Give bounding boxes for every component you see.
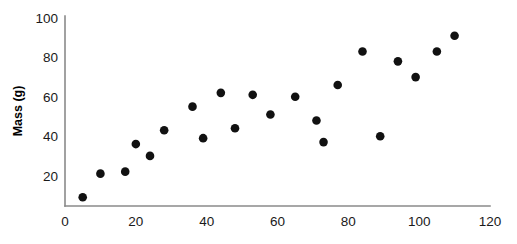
axes — [65, 16, 490, 206]
x-tick-labels: 020406080100120 — [61, 214, 501, 229]
x-tick-label: 120 — [479, 214, 502, 229]
data-point — [266, 110, 275, 119]
data-point — [376, 132, 385, 141]
data-point — [188, 102, 197, 111]
y-tick-label: 80 — [43, 50, 58, 65]
data-point — [312, 116, 321, 125]
y-tick-label: 60 — [43, 90, 58, 105]
data-point — [411, 73, 420, 82]
data-point — [146, 152, 155, 161]
data-point — [78, 193, 87, 202]
data-point — [358, 47, 367, 56]
data-point — [96, 169, 105, 178]
x-tick-label: 20 — [128, 214, 143, 229]
y-tick-labels: 20406080100 — [35, 11, 58, 184]
data-point — [433, 47, 442, 56]
y-tick-label: 20 — [43, 169, 58, 184]
x-tick-label: 100 — [408, 214, 431, 229]
data-point — [394, 57, 403, 66]
y-tick-label: 100 — [35, 11, 58, 26]
y-axis-title: Mass (g) — [11, 86, 25, 137]
data-point — [160, 126, 169, 135]
data-point — [291, 93, 300, 102]
data-point — [121, 167, 130, 176]
data-point — [319, 138, 328, 147]
data-point — [450, 31, 459, 40]
x-tick-label: 60 — [270, 214, 285, 229]
data-point — [333, 81, 342, 90]
data-point — [132, 140, 141, 149]
data-point — [199, 134, 208, 143]
data-point — [217, 89, 226, 98]
plot-area: 20406080100 020406080100120 Mass (g) — [0, 0, 517, 244]
data-point — [231, 124, 240, 133]
y-tick-label: 40 — [43, 129, 58, 144]
x-tick-label: 40 — [199, 214, 214, 229]
x-tick-label: 80 — [341, 214, 356, 229]
x-tick-label: 0 — [61, 214, 69, 229]
data-point — [248, 91, 257, 100]
data-points — [78, 31, 458, 201]
scatter-chart: 20406080100 020406080100120 Mass (g) — [0, 0, 517, 244]
